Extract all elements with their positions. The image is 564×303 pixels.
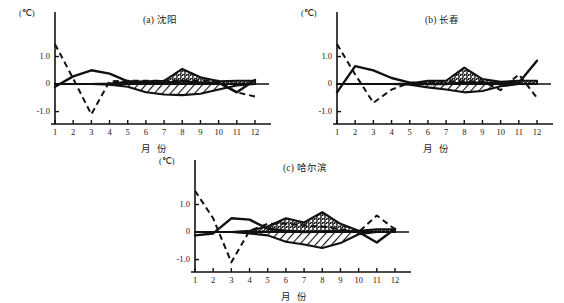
x-tick-label-a-8: 8: [173, 127, 191, 137]
x-tick-label-b-8: 8: [455, 127, 473, 137]
y-tick-label-a-1: 0: [20, 78, 50, 88]
x-tick-label-b-3: 3: [364, 127, 382, 137]
x-tick-label-b-1: 1: [328, 127, 346, 137]
x-tick-label-a-9: 9: [191, 127, 209, 137]
x-tick-label-c-5: 5: [259, 275, 277, 285]
x-tick-label-c-9: 9: [331, 275, 349, 285]
x-tick-label-c-10: 10: [350, 275, 368, 285]
x-tick-label-c-6: 6: [277, 275, 295, 285]
y-tick-label-c-2: -1.0: [160, 254, 190, 264]
y-axis-unit-label-c: (℃): [159, 156, 175, 166]
y-tick-label-b-1: 0: [302, 78, 332, 88]
x-tick-label-a-3: 3: [82, 127, 100, 137]
x-tick-label-a-5: 5: [119, 127, 137, 137]
x-tick-label-c-11: 11: [368, 275, 386, 285]
x-tick-label-a-7: 7: [155, 127, 173, 137]
x-tick-label-b-10: 10: [492, 127, 510, 137]
y-tick-label-b-2: -1.0: [302, 106, 332, 116]
chart-panel-c: (℃)(c) 哈尔滨1.00-1.0123456789101112月 份: [148, 152, 420, 294]
x-tick-label-c-12: 12: [386, 275, 404, 285]
dashed-series-line-a: [55, 44, 255, 114]
y-tick-label-c-0: 1.0: [160, 199, 190, 209]
x-tick-label-b-2: 2: [346, 127, 364, 137]
y-tick-label-a-0: 1.0: [20, 51, 50, 61]
panel-title-a: (a) 沈阳: [143, 12, 177, 26]
y-tick-label-b-0: 1.0: [302, 51, 332, 61]
x-tick-label-a-1: 1: [46, 127, 64, 137]
chart-panel-a: (℃)(a) 沈阳1.00-1.0123456789101112月 份: [8, 4, 280, 146]
x-tick-label-a-6: 6: [137, 127, 155, 137]
x-tick-label-c-3: 3: [222, 275, 240, 285]
y-tick-label-a-2: -1.0: [20, 106, 50, 116]
x-tick-label-a-2: 2: [64, 127, 82, 137]
panel-title-b: (b) 长春: [425, 12, 460, 26]
x-tick-label-c-2: 2: [204, 275, 222, 285]
x-axis-label-c: 月 份: [195, 289, 395, 303]
x-tick-label-b-5: 5: [401, 127, 419, 137]
x-tick-label-c-4: 4: [241, 275, 259, 285]
x-tick-label-b-11: 11: [510, 127, 528, 137]
y-axis-unit-label-b: (℃): [301, 8, 317, 18]
x-tick-label-b-12: 12: [528, 127, 546, 137]
chart-panel-b: (℃)(b) 长春1.00-1.0123456789101112月 份: [290, 4, 562, 146]
panel-title-c: (c) 哈尔滨: [283, 160, 327, 174]
y-axis-unit-label-a: (℃): [19, 8, 35, 18]
x-tick-label-c-1: 1: [186, 275, 204, 285]
x-tick-label-b-9: 9: [473, 127, 491, 137]
y-tick-label-c-1: 0: [160, 226, 190, 236]
x-tick-label-b-7: 7: [437, 127, 455, 137]
x-tick-label-a-4: 4: [101, 127, 119, 137]
dashed-series-line-b: [337, 44, 537, 103]
x-tick-label-a-11: 11: [228, 127, 246, 137]
x-tick-label-a-12: 12: [246, 127, 264, 137]
x-tick-label-b-4: 4: [383, 127, 401, 137]
x-tick-label-c-8: 8: [313, 275, 331, 285]
x-tick-label-c-7: 7: [295, 275, 313, 285]
x-tick-label-a-10: 10: [210, 127, 228, 137]
x-tick-label-b-6: 6: [419, 127, 437, 137]
